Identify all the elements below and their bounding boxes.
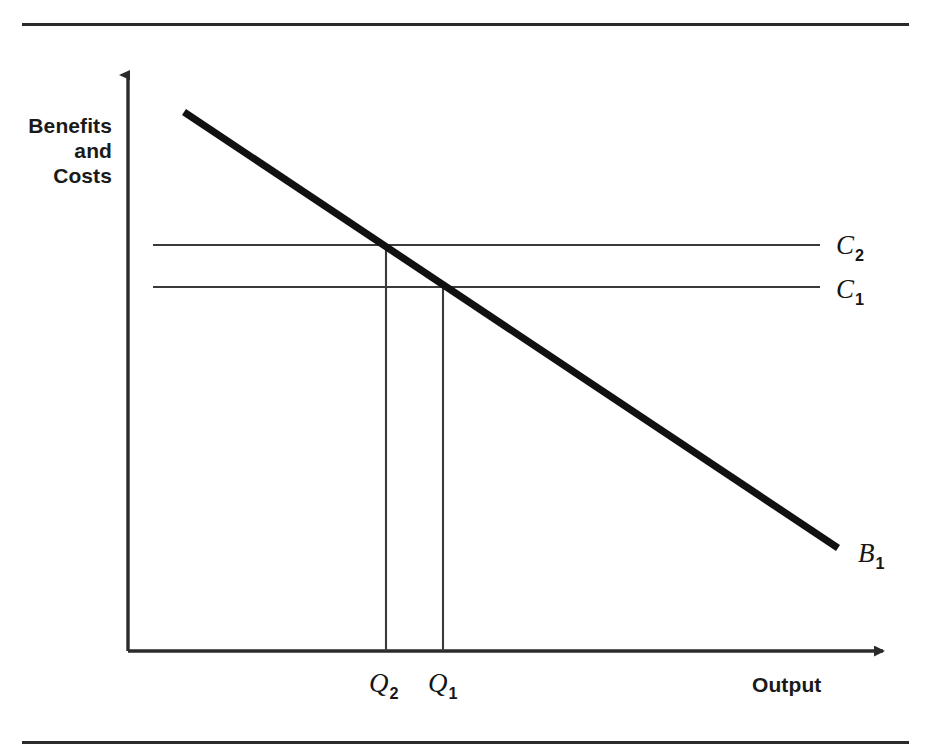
x-tick-label-q2: Q2 [369, 668, 398, 700]
x-tick-label-q1: Q1 [428, 668, 457, 700]
benefit-curve-b1-subscript: 1 [876, 554, 885, 572]
cost-line-c2-subscript: 2 [855, 246, 864, 264]
x-tick-q2-subscript: 2 [390, 684, 399, 702]
cost-line-c1-letter: C [836, 274, 854, 304]
benefit-curve-b1 [184, 112, 838, 548]
cost-line-c1-subscript: 1 [855, 290, 864, 308]
cost-line-c2-letter: C [836, 230, 854, 260]
cost-line-c2-label: C2 [836, 230, 863, 262]
y-axis-label-line3: Costs [53, 164, 112, 187]
cost-line-c1-label: C1 [836, 274, 863, 306]
benefit-curve-b1-label: B1 [858, 538, 884, 570]
x-tick-q1-letter: Q [428, 668, 448, 698]
x-tick-q1-subscript: 1 [449, 684, 458, 702]
benefits-costs-plot [0, 0, 929, 756]
x-tick-q2-letter: Q [369, 668, 389, 698]
x-axis-label: Output [752, 673, 821, 698]
economics-figure: BenefitsandCosts Output C2 C1 B1 Q2 Q1 [0, 0, 929, 756]
y-axis-label-line2: and [74, 139, 112, 162]
benefit-curve-b1-letter: B [858, 538, 875, 568]
y-axis-label: BenefitsandCosts [8, 114, 112, 188]
y-axis-label-line1: Benefits [28, 114, 112, 137]
